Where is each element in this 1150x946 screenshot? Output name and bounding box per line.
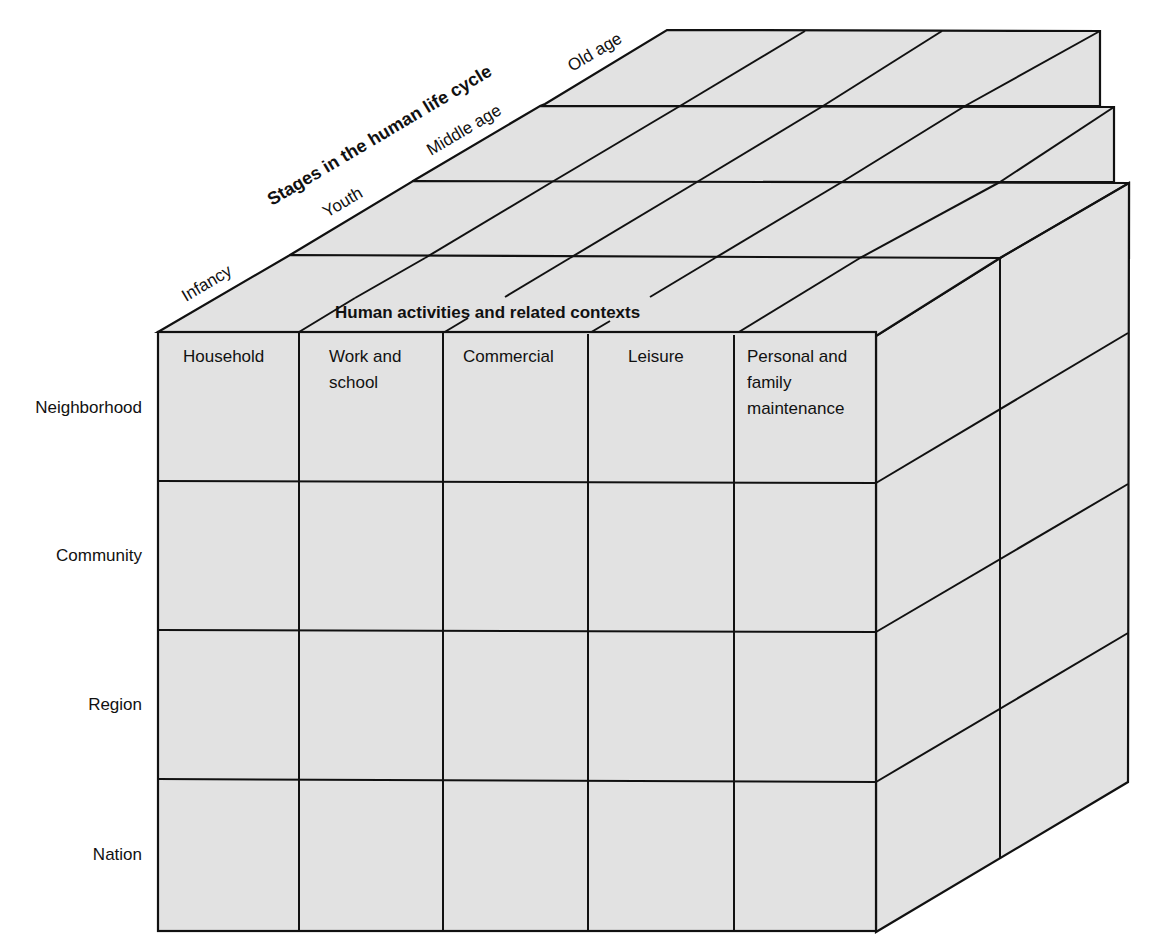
column-header-household: Household bbox=[183, 347, 264, 366]
layer-middle-age bbox=[413, 106, 1114, 182]
column-header-leisure: Leisure bbox=[628, 347, 684, 366]
column-axis-title: Human activities and related contexts bbox=[335, 303, 640, 322]
column-header-commercial: Commercial bbox=[463, 347, 554, 366]
layer-youth bbox=[290, 181, 1129, 258]
row-label-community: Community bbox=[56, 546, 142, 565]
row-labels: Neighborhood Community Region Nation bbox=[35, 398, 142, 864]
row-label-region: Region bbox=[88, 695, 142, 714]
row-label-neighborhood: Neighborhood bbox=[35, 398, 142, 417]
row-label-nation: Nation bbox=[93, 845, 142, 864]
cube-top-face-front-row bbox=[158, 255, 1000, 336]
life-cycle-cube-diagram: Stages in the human life cycle Infancy Y… bbox=[0, 0, 1150, 946]
layer-old-age bbox=[540, 30, 1100, 106]
cube-front-face bbox=[158, 332, 876, 931]
